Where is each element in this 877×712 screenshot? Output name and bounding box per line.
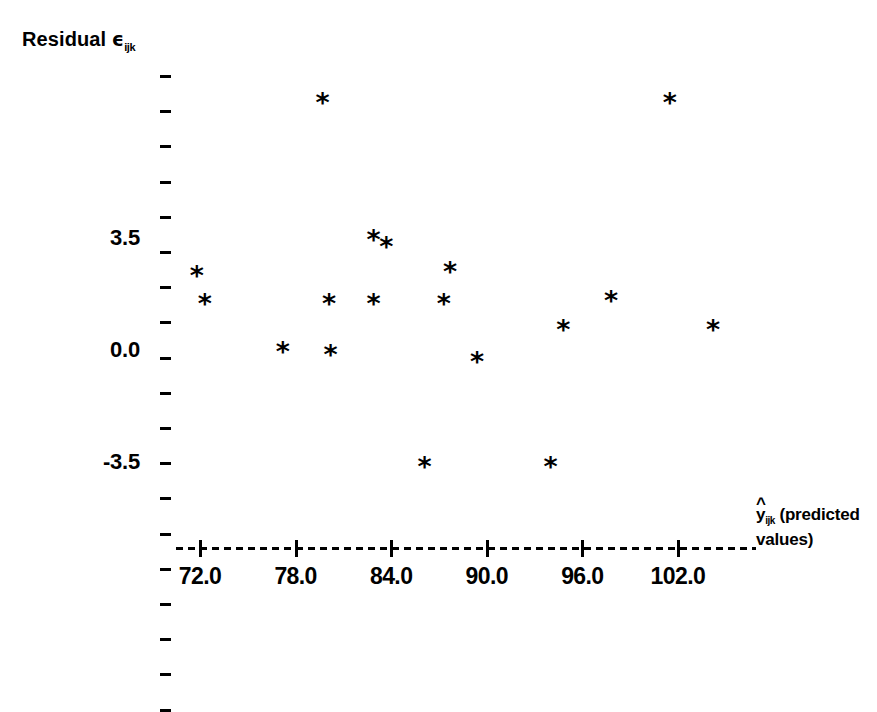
y-axis-minor-tick	[160, 110, 171, 113]
x-axis-title-subscript: ijk	[765, 515, 775, 526]
y-axis-tick-label: 0.0	[30, 337, 140, 363]
y-axis-minor-tick	[160, 427, 171, 430]
y-axis-minor-tick	[160, 392, 171, 395]
y-axis-minor-tick	[160, 286, 171, 289]
x-axis-title: ^yijk (predicted values)	[756, 505, 877, 549]
data-point: *	[467, 350, 487, 374]
x-axis-tick-label: 96.0	[537, 563, 627, 590]
y-axis-minor-tick	[160, 673, 171, 676]
data-point: *	[540, 455, 560, 479]
data-point: *	[440, 260, 460, 284]
data-point: *	[553, 318, 573, 342]
y-axis-minor-tick	[160, 709, 171, 712]
y-axis-minor-tick	[160, 357, 171, 360]
hat-accent-icon: ^	[756, 494, 766, 513]
data-point: *	[376, 235, 396, 259]
data-point: *	[321, 343, 341, 367]
data-point: *	[195, 292, 215, 316]
x-axis-tick-label: 78.0	[251, 563, 341, 590]
y-axis-minor-tick	[160, 181, 171, 184]
data-point: *	[415, 455, 435, 479]
x-axis-line	[176, 547, 756, 550]
x-axis-tick-label: 102.0	[633, 563, 723, 590]
x-axis-tick	[295, 540, 298, 557]
x-axis-tick	[581, 540, 584, 557]
y-axis-minor-tick	[160, 462, 171, 465]
data-point: *	[273, 340, 293, 364]
data-point: *	[434, 292, 454, 316]
data-point: *	[703, 318, 723, 342]
data-point: *	[660, 91, 680, 115]
x-axis-tick	[390, 540, 393, 557]
data-point: *	[313, 91, 333, 115]
y-axis-minor-tick	[160, 603, 171, 606]
x-axis-title-yhat: ^y	[756, 505, 765, 524]
x-axis-tick	[486, 540, 489, 557]
x-axis-title-rest: (predicted	[779, 505, 859, 524]
x-axis-title-rest2: values)	[756, 530, 813, 549]
data-point: *	[319, 292, 339, 316]
y-axis-minor-tick	[160, 497, 171, 500]
x-axis-tick-label: 72.0	[155, 563, 245, 590]
data-point: *	[601, 289, 621, 313]
data-point: *	[364, 292, 384, 316]
y-axis-minor-tick	[160, 321, 171, 324]
y-axis-minor-tick	[160, 75, 171, 78]
y-axis-minor-tick	[160, 251, 171, 254]
x-axis-tick	[199, 540, 202, 557]
y-axis-minor-tick	[160, 216, 171, 219]
y-axis-minor-tick	[160, 533, 171, 536]
y-axis-minor-tick	[160, 638, 171, 641]
y-axis-tick-label: -3.5	[30, 449, 140, 475]
y-axis-title: Residual ϵijk	[22, 28, 135, 53]
x-axis-tick	[677, 540, 680, 557]
data-point: *	[187, 264, 207, 288]
x-axis-tick-label: 84.0	[346, 563, 436, 590]
x-axis-tick-label: 90.0	[442, 563, 532, 590]
y-axis-title-subscript: ijk	[124, 41, 135, 53]
y-axis-tick-label: 3.5	[30, 225, 140, 251]
y-axis-title-symbol: ϵ	[112, 28, 124, 50]
y-axis-minor-tick	[160, 145, 171, 148]
y-axis-title-main: Residual	[22, 28, 106, 50]
